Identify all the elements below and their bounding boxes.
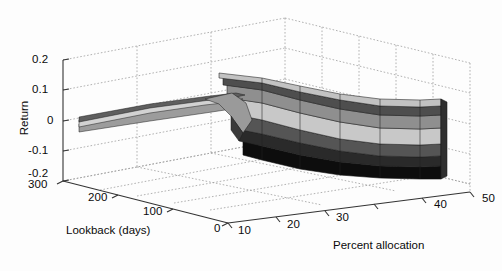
z-tick-label-2: 0: [47, 114, 54, 126]
y-tick-label-0: 0: [214, 222, 221, 234]
x-axis-title: Percent allocation: [333, 239, 424, 251]
y-axis-title: Lookback (days): [66, 224, 150, 236]
z-axis-title: Return: [18, 88, 30, 148]
x-tick-label-20: 20: [287, 218, 300, 230]
z-tick-label-0: 0.2: [32, 53, 48, 65]
y-tick-label-200: 200: [88, 191, 108, 203]
x-tick-label-30: 30: [336, 211, 349, 223]
surface-right-endcap: [441, 99, 447, 179]
z-tick-label-1: 0.1: [32, 83, 48, 95]
y-tick-label-100: 100: [143, 205, 163, 217]
x-tick-label-10: 10: [238, 224, 251, 236]
surface-mesh: [79, 73, 447, 179]
x-tick-label-50: 50: [482, 192, 495, 204]
x-tick-label-40: 40: [434, 198, 447, 210]
y-tick-label-300: 300: [28, 178, 48, 190]
z-tick-label-3: -0.1: [28, 144, 48, 156]
figure-3d-surface-plot: 0.2 0.1 0 -0.1 -0.2 Return 300 200 100 0…: [0, 0, 502, 271]
